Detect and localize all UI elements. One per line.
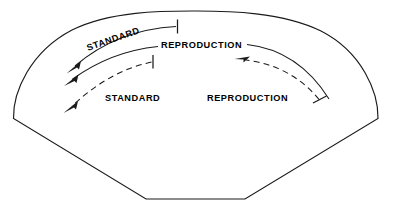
reproduction-upper-label: REPRODUCTION [161,40,242,50]
reproduction-lower-label: REPRODUCTION [207,93,288,103]
diagram-canvas: STANDARD REPRODUCTION STANDARD REPRODUCT… [0,0,393,211]
standard-lower-label: STANDARD [105,93,160,103]
diagram-svg: STANDARD REPRODUCTION STANDARD REPRODUCT… [0,0,393,211]
